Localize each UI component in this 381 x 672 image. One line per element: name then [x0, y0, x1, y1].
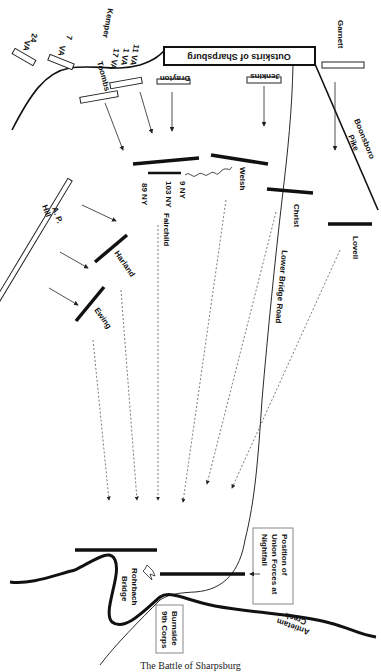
- ny103-label: 103 NY: [164, 181, 173, 208]
- unit-7va-label-1: 7: [64, 35, 74, 41]
- antietam-creek: [10, 555, 376, 637]
- unit-aphill-rect: [0, 178, 72, 305]
- arrow-toombs: [105, 103, 123, 150]
- union-line-1: [133, 158, 199, 164]
- dashed-arrow-2: [121, 290, 137, 500]
- unit-kemper-rect: [110, 77, 143, 88]
- garnett-label: Garnett: [336, 20, 345, 49]
- unit-garnett-rect: [322, 62, 364, 68]
- dashed-arrow-1: [93, 340, 109, 500]
- unit-7va-rect: [48, 54, 74, 69]
- bridge-label-2: Bridge: [120, 576, 129, 602]
- arrow-kemper: [140, 92, 152, 133]
- unit-7va-label-2: VA: [56, 45, 67, 57]
- lovell-label: Lovell: [351, 236, 360, 259]
- christ-label: Christ: [292, 204, 301, 227]
- ny89-label: 89 NY: [140, 183, 149, 206]
- dashed-arrow-5: [207, 212, 276, 484]
- hollow-arrow-icon: [143, 565, 155, 580]
- skirmish-chain: [185, 167, 232, 177]
- sharpsburg-box: Outskirts of Sharpsburg: [164, 47, 315, 65]
- ewing-label: Ewing: [92, 306, 113, 331]
- kemper-label: Kemper: [101, 8, 115, 39]
- nightfall-label-1: Position of: [280, 534, 289, 576]
- nightfall-label-3: Nightfall: [260, 534, 269, 566]
- union-line-welsh: [211, 155, 268, 164]
- burnside-label-2: 9th Corps: [160, 611, 169, 649]
- union-line-christ: [267, 189, 313, 193]
- arrow-hill-2: [60, 252, 88, 268]
- bridge-label-1: Rohrbach: [130, 568, 139, 605]
- burnside-label-1: Burnside: [170, 611, 179, 646]
- drayton-label: Drayton: [160, 74, 190, 83]
- burnside-box: Burnside 9th Corps: [156, 605, 183, 653]
- road-label: Lower Bridge Road: [274, 250, 289, 324]
- sharpsburg-label: Outskirts of Sharpsburg: [187, 52, 291, 62]
- map-caption: The Battle of Sharpsburg: [0, 660, 381, 671]
- fairchild-label: Fairchild: [162, 213, 171, 246]
- ny9-label: 9 NY: [178, 181, 187, 199]
- unit-24va-label-2: VA: [21, 40, 32, 52]
- harland-label: Harland: [112, 249, 137, 279]
- jenkins-label: Jenkins: [250, 72, 280, 81]
- arrow-hill-1: [82, 205, 116, 221]
- nightfall-label-2: Union Forces at: [270, 534, 279, 595]
- unit-24va-rect: [12, 48, 36, 65]
- welsh-label: Welsh: [238, 167, 247, 191]
- dashed-arrow-4: [183, 200, 226, 502]
- nightfall-box: Position of Union Forces at Nightfall: [253, 528, 293, 604]
- battle-map: Outskirts of Sharpsburg Boonsboro Pike L…: [0, 0, 381, 672]
- arrow-hill-3: [49, 288, 78, 305]
- unit-toombs-rect: [80, 91, 118, 104]
